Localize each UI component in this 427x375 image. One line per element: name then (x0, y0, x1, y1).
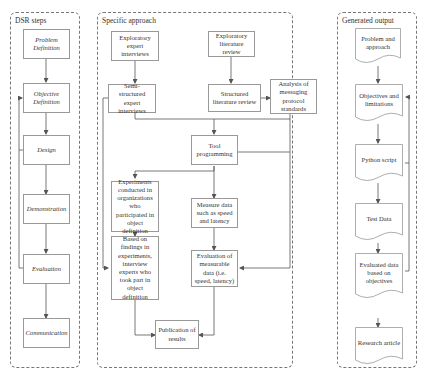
publication-of-results-box: Publication of results (155, 320, 199, 349)
output-doc-test-data: Test Data (355, 203, 403, 243)
box-label: Tool programming (194, 142, 235, 158)
dsr-step-label: Demonstration (27, 205, 67, 213)
tool-programming-box: Tool programming (191, 135, 238, 165)
box-label: Structured literature review (211, 90, 258, 106)
dsr-step-evaluation: Evaluation (23, 254, 70, 284)
output-doc-evaluated-data: Evaluated data based on objectives (355, 253, 403, 301)
output-doc-problem-approach: Problem and approach (355, 28, 401, 66)
output-doc-python-script: Python script (355, 144, 403, 184)
box-label: Analysis of messaging protocol standards (273, 80, 314, 113)
dsr-step-label: Evaluation (32, 265, 61, 273)
dsr-step-demonstration: Demonstration (23, 194, 70, 224)
box-label: Exploratory literature review (211, 32, 252, 57)
dsr-step-label: Design (37, 146, 56, 154)
doc-label: Evaluated data based on objectives (355, 253, 403, 293)
dsr-step-label: Communication (25, 329, 67, 337)
box-label: Exploratory expert interviews (114, 34, 156, 59)
box-label: Measure data such as speed and latency (194, 201, 235, 226)
dsr-step-design: Design (23, 135, 70, 165)
box-label: Semi-structured expert interviews (111, 82, 153, 115)
box-label: Based on findings in experiments, interv… (114, 235, 156, 301)
dsr-step-label: Objective Definition (26, 90, 67, 106)
doc-label: Problem and approach (355, 28, 401, 58)
analysis-messaging-protocols-box: Analysis of messaging protocol standards (270, 79, 317, 114)
doc-label: Test Data (355, 203, 403, 235)
measure-data-box: Measure data such as speed and latency (191, 198, 238, 228)
structured-literature-review-box: Structured literature review (208, 84, 261, 112)
box-label: Experiments conducted in organizations w… (114, 178, 156, 235)
output-doc-objectives-limitations: Objectives and limitations (355, 84, 403, 124)
based-on-findings-box: Based on findings in experiments, interv… (111, 236, 159, 300)
exploratory-expert-interviews-box: Exploratory expert interviews (111, 31, 159, 61)
semi-structured-interviews-box: Semi-structured expert interviews (108, 84, 156, 113)
dsr-step-objective-definition: Objective Definition (23, 83, 70, 113)
doc-label: Research article (355, 327, 403, 359)
output-doc-research-article: Research article (355, 327, 403, 367)
evaluation-measurable-data-box: Evaluation of measurable data (i.e. spee… (191, 250, 238, 287)
dsr-step-label: Problem Definition (26, 36, 67, 52)
experiments-box: Experiments conducted in organizations w… (111, 181, 159, 232)
dsr-step-problem-definition: Problem Definition (23, 29, 70, 59)
exploratory-literature-review-box: Exploratory literature review (208, 31, 255, 57)
box-label: Publication of results (158, 326, 196, 342)
dsr-step-communication: Communication (23, 318, 70, 348)
doc-label: Objectives and limitations (355, 84, 403, 116)
doc-label: Python script (355, 144, 403, 176)
box-label: Evaluation of measurable data (i.e. spee… (194, 252, 235, 285)
